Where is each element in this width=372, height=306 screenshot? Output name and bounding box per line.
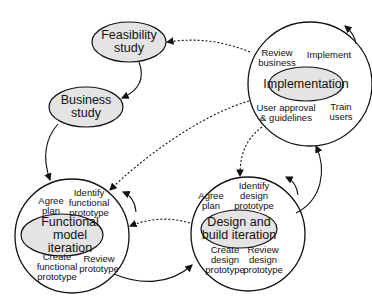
functional-create3: prototype: [37, 272, 78, 282]
design-review3: prototype: [243, 265, 283, 275]
design-agree2: plan: [198, 201, 223, 211]
functional-title: Functional model iteration: [41, 216, 99, 255]
design-review: Review design prototype: [243, 245, 283, 275]
functional-agree2: plan: [38, 206, 63, 216]
functional-identify: Identify functional prototype: [69, 188, 110, 218]
design-title: Design and build iteration: [202, 216, 276, 242]
business-line2: study: [61, 107, 112, 120]
implementation-title: Implementation: [263, 78, 348, 91]
feasibility-line2: study: [101, 42, 157, 55]
feasibility-study-label: Feasibility study: [101, 29, 157, 55]
design-create: Create design prototype: [205, 245, 245, 275]
functional-review2: prototype: [79, 264, 119, 274]
design-identify3: prototype: [234, 201, 274, 211]
impl-approval2: & guidelines: [256, 113, 315, 123]
implementation-train-users: Train users: [329, 102, 352, 122]
design-create3: prototype: [205, 265, 245, 275]
design-agree-plan: Agree plan: [198, 191, 223, 211]
functional-identify3: prototype: [69, 208, 110, 218]
implementation-implement: Implement: [307, 50, 351, 60]
design-title2: build iteration: [202, 229, 276, 242]
implementation-user-approval: User approval & guidelines: [256, 103, 315, 123]
business-study-label: Business study: [61, 94, 112, 120]
functional-review: Review prototype: [79, 254, 119, 274]
implementation-review-business: Review business: [258, 48, 296, 68]
impl-train2: users: [329, 112, 352, 122]
functional-agree-plan: Agree plan: [38, 196, 63, 216]
functional-create: Create functional prototype: [37, 252, 78, 282]
design-identify: Identify design prototype: [234, 181, 274, 211]
impl-review2: business: [258, 58, 296, 68]
dsdm-lifecycle-diagram: Feasibility study Business study Functio…: [0, 0, 372, 306]
